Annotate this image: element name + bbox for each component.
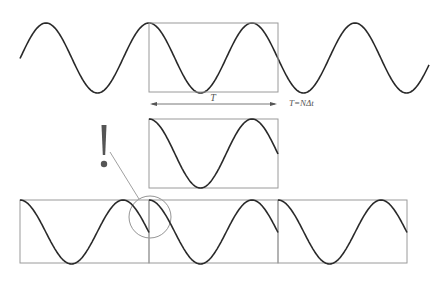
windowed-segment-wave [149, 119, 278, 188]
window-formula-label: T=NΔt [289, 98, 314, 108]
extension-wave-1 [20, 200, 149, 264]
callout-line [110, 152, 139, 199]
warning-exclamation-icon [101, 125, 107, 167]
original-sine-wave [20, 23, 429, 93]
extension-wave-2 [149, 200, 278, 264]
diagram-canvas: T T=NΔt [0, 0, 442, 283]
window-length-label: T [210, 92, 217, 103]
discontinuity-highlight-circle [129, 196, 171, 238]
extension-wave-3 [278, 200, 407, 264]
